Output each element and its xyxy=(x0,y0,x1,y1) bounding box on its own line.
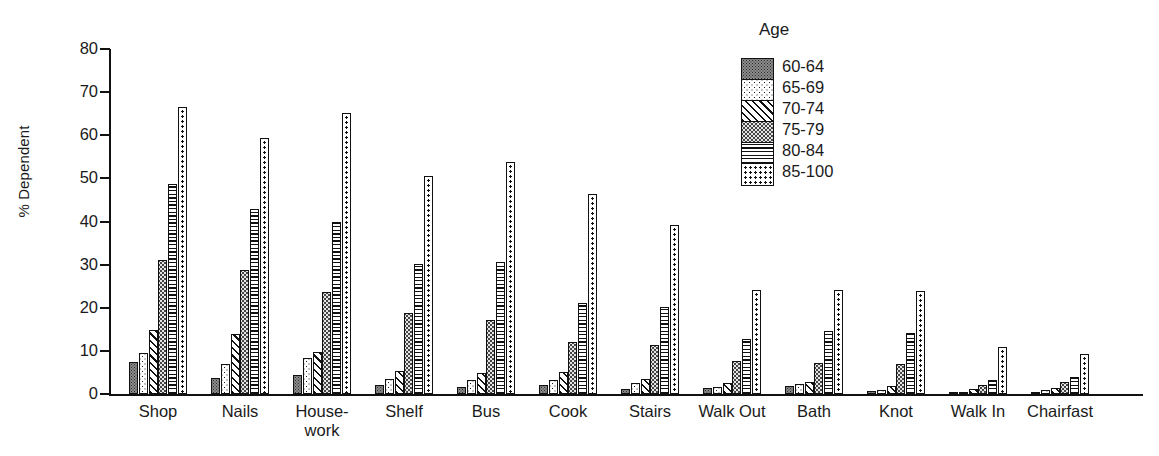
bar xyxy=(805,382,814,395)
y-tick-label: 60 xyxy=(52,126,98,143)
bar xyxy=(631,383,640,394)
legend-label: 60-64 xyxy=(782,56,833,77)
bar xyxy=(713,387,722,394)
bar xyxy=(877,390,886,394)
bar xyxy=(332,222,341,395)
bar xyxy=(149,330,158,394)
bar-group xyxy=(211,49,269,394)
bar xyxy=(375,385,384,394)
legend-swatch-box xyxy=(741,58,774,186)
legend-title: Age xyxy=(759,20,789,40)
plot-area xyxy=(109,49,1143,394)
bar-group xyxy=(867,49,925,394)
y-tick xyxy=(100,264,110,266)
y-tick xyxy=(100,48,110,50)
bar xyxy=(732,361,741,394)
y-tick-label: 20 xyxy=(52,299,98,316)
y-tick xyxy=(100,350,110,352)
bar xyxy=(506,162,515,394)
bar xyxy=(578,303,587,394)
legend-label: 75-79 xyxy=(782,119,833,140)
y-tick-label: 30 xyxy=(52,256,98,273)
bar xyxy=(404,313,413,394)
x-category-label: Chairfast xyxy=(1000,402,1120,421)
legend-swatch xyxy=(742,101,773,122)
y-axis-label: % Dependent xyxy=(15,87,32,257)
y-tick-label: 0 xyxy=(52,385,98,402)
bar xyxy=(916,291,925,394)
bar-group xyxy=(621,49,679,394)
bar xyxy=(814,363,823,394)
bar xyxy=(221,364,230,394)
bar xyxy=(1051,388,1060,394)
y-tick xyxy=(100,393,110,395)
legend-label: 65-69 xyxy=(782,77,833,98)
legend-label: 80-84 xyxy=(782,140,833,161)
bar-group xyxy=(1031,49,1089,394)
legend-swatch xyxy=(742,164,773,185)
bar xyxy=(293,375,302,394)
legend-label: 70-74 xyxy=(782,98,833,119)
bar xyxy=(752,290,761,394)
bar xyxy=(313,352,322,394)
bar xyxy=(158,260,167,394)
bar xyxy=(549,380,558,394)
bar xyxy=(568,342,577,394)
bar xyxy=(978,385,987,394)
bar xyxy=(998,347,1007,394)
bar xyxy=(1080,354,1089,394)
bar xyxy=(1060,382,1069,394)
bar xyxy=(867,391,876,394)
bar-group xyxy=(539,49,597,394)
bar xyxy=(988,380,997,394)
bar xyxy=(824,331,833,394)
bar xyxy=(588,194,597,394)
bar xyxy=(385,379,394,394)
bar xyxy=(240,270,249,394)
bar xyxy=(723,383,732,394)
y-tick xyxy=(100,134,110,136)
bar xyxy=(887,386,896,394)
bar xyxy=(906,333,915,394)
bar xyxy=(834,290,843,394)
bar xyxy=(395,371,404,394)
bar xyxy=(414,264,423,394)
y-tick-label: 50 xyxy=(52,169,98,186)
bar xyxy=(139,353,148,394)
y-tick xyxy=(100,177,110,179)
legend-label: 85-100 xyxy=(782,161,833,182)
bar xyxy=(896,364,905,394)
legend-swatch xyxy=(742,80,773,101)
bar xyxy=(539,385,548,394)
bar xyxy=(703,388,712,394)
bar xyxy=(742,339,751,394)
y-tick-label: 10 xyxy=(52,342,98,359)
bar xyxy=(250,209,259,394)
legend-swatch xyxy=(742,143,773,164)
legend-swatch xyxy=(742,59,773,80)
y-tick-label: 70 xyxy=(52,83,98,100)
bar xyxy=(641,379,650,394)
bar xyxy=(457,387,466,394)
y-tick xyxy=(100,307,110,309)
bar xyxy=(660,307,669,394)
bar-chart: % Dependent 01020304050607080 ShopNailsH… xyxy=(0,0,1159,456)
bar xyxy=(650,345,659,394)
bar xyxy=(949,392,958,395)
bar xyxy=(959,392,968,395)
bar xyxy=(231,334,240,394)
bar xyxy=(342,113,351,394)
bar-group xyxy=(129,49,187,394)
bar xyxy=(322,292,331,394)
bar xyxy=(486,320,495,394)
bar xyxy=(260,138,269,394)
bar xyxy=(969,389,978,394)
bar xyxy=(1041,390,1050,394)
bar xyxy=(303,358,312,394)
bar xyxy=(785,386,794,394)
bar xyxy=(496,262,505,394)
bar xyxy=(559,372,568,394)
bar-group xyxy=(375,49,433,394)
bar xyxy=(1031,392,1040,395)
bar xyxy=(178,107,187,394)
